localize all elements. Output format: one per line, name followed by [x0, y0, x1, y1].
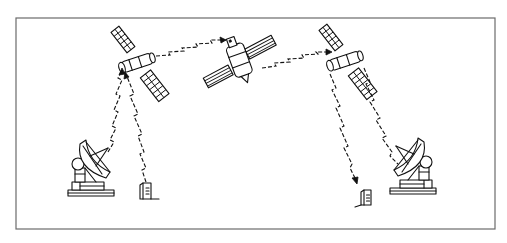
relay-satellite-icon [203, 34, 276, 87]
arrow-down-terminal-right [352, 177, 358, 184]
link-left-to-relay [156, 40, 226, 56]
link-right-to-terminal [330, 74, 356, 180]
terminal-left-icon [140, 183, 159, 199]
ground-station-right-icon [390, 138, 436, 194]
satellite-left-icon [111, 26, 169, 101]
arrow-up-left-b [124, 72, 129, 79]
link-terminal-left-up [126, 74, 146, 182]
arrow-to-right-sat [326, 49, 332, 55]
ground-station-left-icon [68, 140, 114, 196]
satellite-relay-diagram [0, 0, 507, 243]
link-groundstation-left-up [108, 70, 122, 152]
arrow-to-relay [220, 37, 226, 43]
terminal-right-icon [355, 190, 371, 207]
link-relay-to-right [262, 52, 330, 68]
